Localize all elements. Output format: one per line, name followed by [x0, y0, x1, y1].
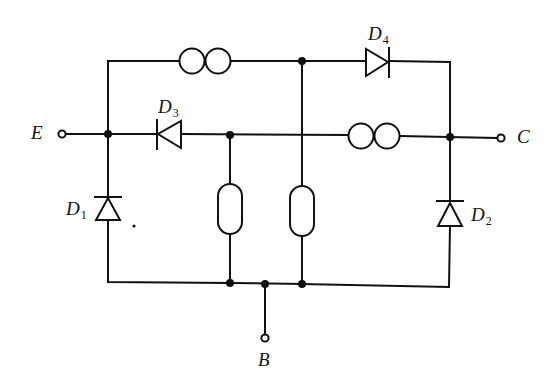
label-e: E — [31, 123, 43, 142]
label-d1: D1 — [66, 199, 87, 221]
left-resistor — [218, 184, 242, 234]
label-d4: D4 — [368, 24, 389, 46]
right-resistor — [290, 186, 314, 236]
middle-wire — [66, 134, 497, 138]
right-resistor-branch — [290, 61, 314, 283]
label-d2: D2 — [471, 205, 492, 227]
d3-diode-icon — [157, 120, 181, 149]
circuit-diagram: E C B D1 D2 D3 D4 — [0, 0, 552, 383]
label-c: C — [517, 127, 530, 146]
terminal-b — [261, 334, 268, 341]
d3-letter: D — [158, 96, 172, 117]
middle-branch-inductor — [349, 124, 400, 149]
junction-dots — [104, 57, 454, 288]
d2-subscript: 2 — [486, 214, 492, 228]
d4-diode-icon — [366, 48, 389, 77]
terminal-e — [58, 130, 65, 137]
left-resistor-branch — [218, 135, 242, 283]
d2-branch — [302, 137, 463, 287]
terminal-c — [497, 134, 504, 141]
label-d3: D3 — [158, 97, 179, 119]
top-branch-inductor — [180, 49, 231, 74]
d3-subscript: 3 — [173, 106, 179, 120]
d1-diode-icon — [95, 197, 121, 220]
d4-subscript: 4 — [383, 33, 389, 47]
d2-letter: D — [471, 204, 485, 225]
circuit-schematic — [0, 0, 552, 383]
d4-letter: D — [368, 23, 382, 44]
label-b: B — [258, 350, 270, 369]
d1-letter: D — [66, 198, 80, 219]
d2-diode-icon — [437, 201, 463, 226]
stray-mark — [132, 224, 135, 227]
d1-subscript: 1 — [81, 208, 87, 222]
d1-branch — [95, 134, 230, 283]
